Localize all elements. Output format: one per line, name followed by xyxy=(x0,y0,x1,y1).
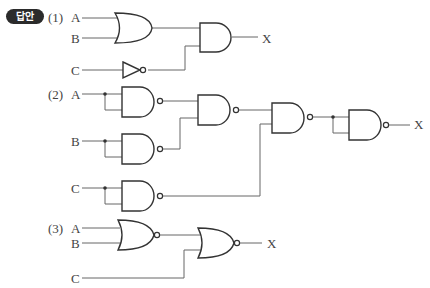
nor-gate-icon xyxy=(198,228,234,258)
and-gate-icon xyxy=(200,23,231,52)
or-gate-icon xyxy=(115,13,152,43)
nor-gate-icon xyxy=(118,220,154,250)
nand-gate-icon xyxy=(198,95,230,125)
circuit-1 xyxy=(82,13,258,78)
nand-gate-icon xyxy=(272,103,304,133)
not-gate-icon xyxy=(123,62,140,78)
nand-gate-icon xyxy=(122,181,154,211)
logic-circuit-diagram xyxy=(0,0,430,288)
nand-gate-icon xyxy=(122,87,154,117)
circuit-3 xyxy=(82,220,262,278)
nand-gate-icon xyxy=(122,134,154,164)
circuit-2 xyxy=(82,87,410,211)
nand-gate-icon xyxy=(349,110,381,140)
